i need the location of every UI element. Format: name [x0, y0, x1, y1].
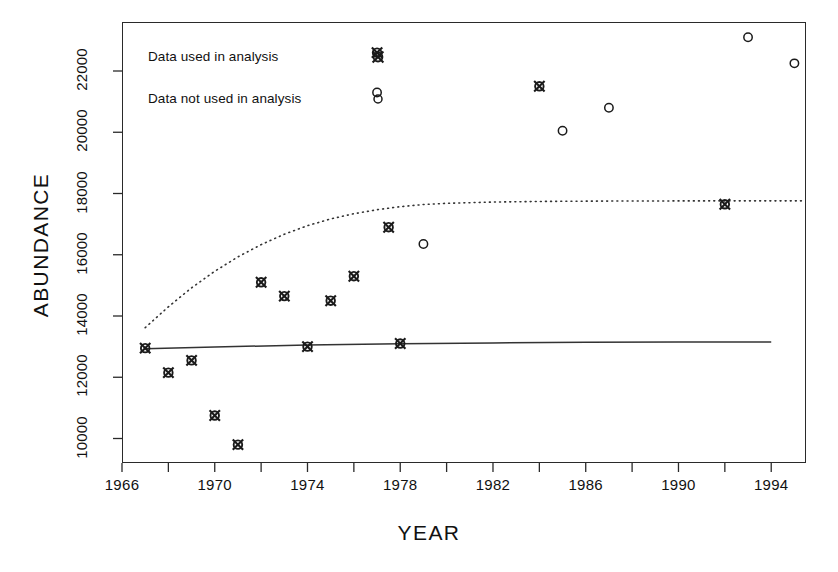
- y-tick-label: 14000: [73, 292, 90, 338]
- y-axis-title: ABUNDANCE: [29, 165, 53, 325]
- x-tick-label: 1970: [175, 476, 255, 493]
- x-tick-label: 1990: [638, 476, 718, 493]
- chart-figure: 10000120001400016000180002000022000 1966…: [0, 0, 838, 572]
- y-tick-label: 12000: [73, 353, 90, 399]
- legend-label-not-used: Data not used in analysis: [148, 91, 301, 106]
- plot-area-frame: [122, 22, 806, 463]
- y-tick-label: 18000: [73, 169, 90, 215]
- y-tick-label: 20000: [73, 108, 90, 154]
- x-tick-label: 1994: [731, 476, 811, 493]
- x-tick-label: 1966: [82, 476, 162, 493]
- x-axis-title: YEAR: [349, 521, 509, 545]
- x-tick-label: 1974: [267, 476, 347, 493]
- x-tick-label: 1986: [546, 476, 626, 493]
- y-tick-label: 16000: [73, 230, 90, 276]
- legend-label-used: Data used in analysis: [148, 49, 278, 64]
- x-tick-label: 1978: [360, 476, 440, 493]
- x-axis-ticks: [122, 463, 771, 472]
- x-tick-label: 1982: [453, 476, 533, 493]
- y-tick-label: 10000: [73, 414, 90, 460]
- y-axis-ticks: [113, 71, 122, 439]
- y-tick-label: 22000: [73, 47, 90, 93]
